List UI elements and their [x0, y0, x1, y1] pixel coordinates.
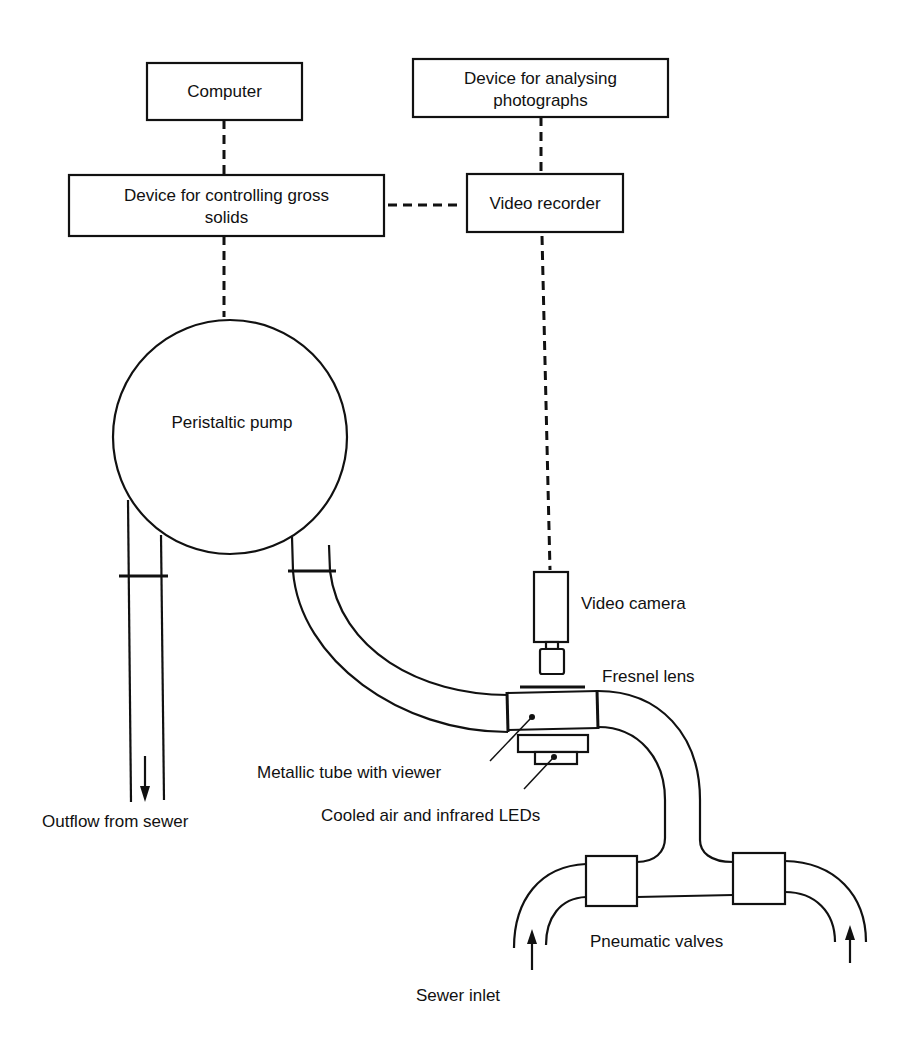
- sewer-monitoring-diagram: Computer Device for analysing photograph…: [0, 0, 914, 1054]
- video-recorder-box: Video recorder: [467, 174, 623, 232]
- valve-connector-pipe: [637, 895, 733, 897]
- pneumatic-valve-left: [586, 856, 637, 906]
- video-recorder-label: Video recorder: [489, 194, 601, 213]
- gross-solids-label-line2: solids: [205, 208, 248, 227]
- metallic-tube-leader-dot: [529, 714, 535, 720]
- cooled-air-label: Cooled air and infrared LEDs: [321, 806, 540, 825]
- recorder-to-camera-link: [542, 236, 550, 570]
- computer-box: Computer: [147, 63, 302, 120]
- pump-to-tube-pipe: [288, 537, 508, 732]
- tube-to-valves-pipe: [598, 691, 733, 862]
- video-camera: [534, 572, 568, 674]
- cooled-air-leader-dot: [551, 754, 557, 760]
- sewer-inlet-label: Sewer inlet: [416, 986, 500, 1005]
- photo-analysis-box: Device for analysing photographs: [413, 59, 668, 117]
- gross-solids-control-box: Device for controlling gross solids: [69, 175, 384, 236]
- photo-analysis-label-line1: Device for analysing: [464, 69, 617, 88]
- video-camera-label: Video camera: [581, 594, 686, 613]
- metallic-tube-label: Metallic tube with viewer: [257, 763, 442, 782]
- inlet-arrow-right-head-icon: [845, 925, 855, 940]
- pneumatic-valves-label: Pneumatic valves: [590, 932, 723, 951]
- outflow-label: Outflow from sewer: [42, 812, 189, 831]
- outflow-pipe: [119, 500, 168, 802]
- outflow-arrow-head-icon: [140, 786, 150, 802]
- gross-solids-label-line1: Device for controlling gross: [124, 186, 329, 205]
- pneumatic-valve-right: [733, 853, 785, 904]
- metallic-tube: [507, 690, 598, 732]
- inlet-arrow-left-head-icon: [527, 929, 537, 944]
- computer-label: Computer: [187, 82, 262, 101]
- photo-analysis-label-line2: photographs: [493, 91, 588, 110]
- peristaltic-pump: Peristaltic pump: [113, 320, 347, 554]
- peristaltic-pump-label: Peristaltic pump: [172, 413, 293, 432]
- fresnel-lens-label: Fresnel lens: [602, 667, 695, 686]
